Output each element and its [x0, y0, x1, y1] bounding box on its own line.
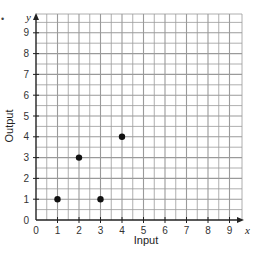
x-tick-label: 8	[205, 225, 211, 236]
y-tick-label: 4	[23, 131, 29, 142]
data-point	[119, 134, 125, 140]
x-tick-label: 6	[162, 225, 168, 236]
x-tick-label: 3	[98, 225, 104, 236]
y-tick-label: 1	[23, 194, 29, 205]
x-tick-label: 0	[33, 225, 39, 236]
x-tick-label: 9	[227, 225, 233, 236]
x-tick-label: 4	[119, 225, 125, 236]
y-tick-label: 3	[23, 152, 29, 163]
data-point	[97, 196, 103, 202]
y-tick-label: 8	[23, 48, 29, 59]
y-tick-label: 5	[23, 111, 29, 122]
axes	[33, 13, 244, 223]
y-tick-label: 0	[23, 215, 29, 226]
y-tick-label: 2	[23, 173, 29, 184]
x-tick-label: 1	[55, 225, 61, 236]
x-axis-variable: x	[244, 224, 250, 236]
y-axis-title: Output	[3, 109, 15, 142]
x-axis-arrow-icon	[237, 217, 244, 223]
x-tick-label: 7	[184, 225, 190, 236]
grid	[36, 14, 242, 220]
x-tick-label: 2	[76, 225, 82, 236]
x-axis-title: Input	[134, 234, 158, 246]
y-tick-label: 6	[23, 90, 29, 101]
y-tick-label: 9	[23, 27, 29, 38]
scatter-chart: 0123456789 0123456789 Input Output x y	[0, 0, 254, 254]
y-axis-variable: y	[25, 11, 31, 23]
y-tick-label: 7	[23, 69, 29, 80]
data-point	[54, 196, 60, 202]
data-point	[76, 154, 82, 160]
